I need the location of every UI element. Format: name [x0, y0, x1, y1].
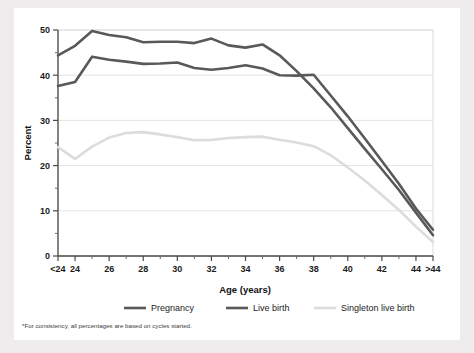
x-tick-label-30: 30	[172, 264, 182, 274]
x-tick-label-40: 40	[343, 264, 353, 274]
x-tick-label-32: 32	[206, 264, 216, 274]
figure-footnote: *For consistency, all percentages are ba…	[22, 322, 192, 329]
line-chart: 01020304050 <242426283032343638404244>44…	[14, 8, 460, 340]
x-tick-label-34: 34	[240, 264, 250, 274]
x-tick-label-38: 38	[309, 264, 319, 274]
x-tick-label-24: 24	[70, 264, 80, 274]
x-axis: <242426283032343638404244>44	[50, 256, 440, 274]
x-tick-label-42: 42	[377, 264, 387, 274]
legend-label-singleton-live-birth: Singleton live birth	[341, 303, 415, 313]
y-tick-label-0: 0	[45, 251, 50, 261]
figure-card: 01020304050 <242426283032343638404244>44…	[14, 8, 460, 340]
y-tick-label-30: 30	[40, 116, 50, 126]
y-tick-label-50: 50	[40, 25, 50, 35]
y-axis-tick-labels: 01020304050	[40, 25, 50, 261]
x-tick-label-36: 36	[275, 264, 285, 274]
chart-legend: PregnancyLive birthSingleton live birth	[124, 303, 415, 313]
x-tick-label-44: 44	[411, 264, 421, 274]
legend-label-live-birth: Live birth	[253, 303, 290, 313]
plot-background	[58, 30, 433, 256]
y-axis-ticks	[53, 30, 58, 256]
legend-label-pregnancy: Pregnancy	[151, 303, 195, 313]
x-axis-title: Age (years)	[219, 284, 271, 295]
x-tick-label-28: 28	[138, 264, 148, 274]
x-tick-label->44: >44	[425, 264, 440, 274]
x-axis-ticks	[58, 256, 433, 261]
x-tick-label-<24: <24	[50, 264, 65, 274]
chart-stage: 01020304050 <242426283032343638404244>44…	[14, 8, 460, 340]
y-tick-label-10: 10	[40, 206, 50, 216]
y-axis-title: Percent	[22, 125, 33, 161]
y-axis: 01020304050	[40, 25, 58, 261]
x-axis-tick-labels: <242426283032343638404244>44	[50, 264, 440, 274]
y-tick-label-40: 40	[40, 71, 50, 81]
x-tick-label-26: 26	[104, 264, 114, 274]
y-tick-label-20: 20	[40, 161, 50, 171]
